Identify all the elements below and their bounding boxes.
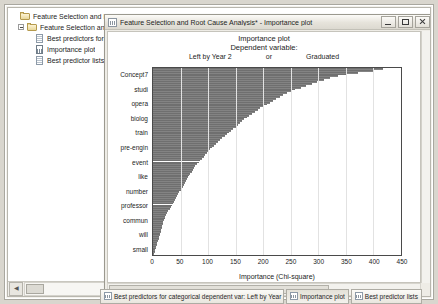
grid-line xyxy=(263,68,264,255)
spreadsheet-icon xyxy=(34,34,45,43)
chart-canvas: Importance plot Dependent variable: Left… xyxy=(107,31,421,283)
folder-icon xyxy=(20,12,31,21)
y-axis-tick-label: will xyxy=(139,231,148,238)
y-axis-tick-label: number xyxy=(126,187,148,194)
tree-expander-spacer xyxy=(24,56,33,65)
plot-title-block: Importance plot Dependent variable: Left… xyxy=(108,34,420,61)
plot-title: Importance plot xyxy=(108,34,420,43)
y-axis-tick-label: pre-engin xyxy=(121,143,148,150)
spreadsheet-icon xyxy=(355,292,363,300)
minimize-button[interactable] xyxy=(381,16,396,28)
tree-expander-spacer xyxy=(10,12,19,21)
x-axis-labels: 050100150200250300350400450 xyxy=(152,258,402,268)
tree-expander-spacer xyxy=(24,45,33,54)
folder-icon xyxy=(27,23,38,32)
group-label-right: Graduated xyxy=(306,52,339,61)
x-axis-tick-label: 200 xyxy=(258,258,269,265)
chart-document-icon xyxy=(108,18,117,27)
y-axis-tick-label: opera xyxy=(131,100,148,107)
x-axis-tick-label: 400 xyxy=(369,258,380,265)
y-axis-tick-label: Concept7 xyxy=(120,71,148,78)
taskbar-item[interactable]: Importance plot xyxy=(286,289,349,304)
spreadsheet-icon xyxy=(34,56,45,65)
grid-line xyxy=(318,68,319,255)
bar xyxy=(153,253,154,255)
tree-node-label: Best predictors for c xyxy=(47,33,109,44)
spreadsheet-icon xyxy=(104,292,112,300)
maximize-button[interactable] xyxy=(398,16,413,28)
x-axis-tick-label: 250 xyxy=(285,258,296,265)
chart-vertical-scrollbar[interactable] xyxy=(421,31,431,283)
taskbar-item-label: Best predictors for categorical dependen… xyxy=(114,293,284,300)
workspace-client-area: Feature Selection and RootFeature Select… xyxy=(7,7,431,297)
y-axis-tick-label: biolog xyxy=(131,114,148,121)
plot-subtitle: Dependent variable: xyxy=(108,43,420,52)
x-axis-tick-label: 0 xyxy=(150,258,154,265)
workspace-window: Feature Selection and RootFeature Select… xyxy=(4,4,434,300)
grid-line xyxy=(181,68,182,255)
taskbar-item-label: Best predictor lists xyxy=(365,293,418,300)
bar-series xyxy=(153,68,401,255)
tree-node-label: Importance plot xyxy=(47,44,95,55)
y-axis-tick-label: train xyxy=(135,129,148,136)
document-taskbar[interactable]: Best predictors for categorical dependen… xyxy=(4,288,434,304)
group-label-or: or xyxy=(266,52,272,61)
x-axis-tick-label: 450 xyxy=(397,258,408,265)
taskbar-item-label: Importance plot xyxy=(300,293,345,300)
chart-icon xyxy=(34,45,45,54)
tree-node-label: Best predictor lists xyxy=(47,55,104,66)
importance-plot-window[interactable]: Feature Selection and Root Cause Analysi… xyxy=(104,14,431,297)
grid-line xyxy=(373,68,374,255)
y-axis-tick-label: studi xyxy=(134,85,148,92)
y-axis-tick-label: commun xyxy=(123,216,148,223)
x-axis-tick-label: 150 xyxy=(230,258,241,265)
grid-line xyxy=(208,68,209,255)
y-axis-tick-label: professor xyxy=(121,202,148,209)
chart-window-title: Feature Selection and Root Cause Analysi… xyxy=(120,19,381,26)
chart-window-titlebar[interactable]: Feature Selection and Root Cause Analysi… xyxy=(105,15,431,30)
grid-line xyxy=(346,68,347,255)
x-axis-tick-label: 50 xyxy=(176,258,183,265)
taskbar-item[interactable]: Best predictors for categorical dependen… xyxy=(100,289,284,304)
taskbar-item[interactable]: Best predictor lists xyxy=(351,289,422,304)
y-axis-labels: Concept7studioperabiologtrainpre-enginev… xyxy=(108,67,150,256)
chart-icon xyxy=(290,292,298,300)
tree-expander-spacer xyxy=(24,34,33,43)
plot-subtitle-groups: Left by Year 2 or Graduated xyxy=(108,52,420,61)
grid-line xyxy=(291,68,292,255)
x-axis-title: Importance (Chi-square) xyxy=(152,273,402,280)
x-axis-tick-label: 300 xyxy=(313,258,324,265)
y-axis-tick-label: small xyxy=(133,245,148,252)
group-label-left: Left by Year 2 xyxy=(189,52,232,61)
close-button[interactable] xyxy=(415,16,430,28)
tree-expander-icon[interactable] xyxy=(17,23,26,32)
grid-line xyxy=(236,68,237,255)
x-axis-tick-label: 100 xyxy=(202,258,213,265)
plot-axes xyxy=(152,67,402,256)
window-controls xyxy=(381,16,431,28)
y-axis-tick-label: event xyxy=(132,158,148,165)
x-axis-tick-label: 350 xyxy=(341,258,352,265)
y-axis-tick-label: like xyxy=(138,173,148,180)
